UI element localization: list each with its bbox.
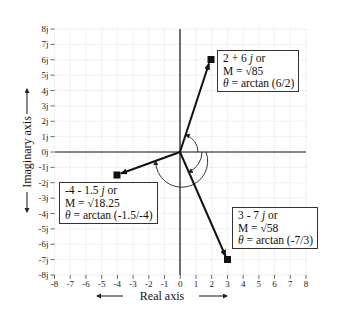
x-tick-label: -2 bbox=[145, 279, 153, 289]
point-marker-2 bbox=[114, 172, 121, 179]
x-tick-label: -5 bbox=[98, 279, 106, 289]
x-tick-label: 7 bbox=[288, 279, 293, 289]
point-marker-3 bbox=[224, 256, 231, 263]
angle-text: = arctan (6/2) bbox=[229, 77, 295, 89]
x-tick-label: -8 bbox=[51, 279, 59, 289]
y-tick-label: 1j bbox=[41, 132, 48, 142]
magnitude-text: M = √58 bbox=[238, 222, 313, 235]
real-axis-title: Real axis bbox=[97, 289, 227, 303]
or-text: or bbox=[105, 184, 117, 196]
y-tick-label: -5j bbox=[39, 224, 49, 234]
or-text: or bbox=[265, 209, 277, 221]
point-marker-1 bbox=[208, 56, 215, 63]
y-tick-label: 2j bbox=[41, 116, 48, 126]
angle-text: = arctan (-1.5/-4) bbox=[71, 209, 153, 221]
angle-text: = arctan (-7/3) bbox=[244, 234, 313, 246]
x-tick-label: 5 bbox=[257, 279, 262, 289]
y-tick-label: -1j bbox=[39, 162, 49, 172]
vector-2 bbox=[121, 152, 180, 174]
magnitude-text: M = √85 bbox=[223, 65, 294, 78]
complex-value: -4 - 1.5 bbox=[65, 184, 101, 196]
annotation-vector-1: 2 + 6 j or M = √85 θ = arctan (6/2) bbox=[217, 50, 299, 92]
y-tick-label: -8j bbox=[39, 270, 49, 280]
angle-arc-vector-3 bbox=[189, 152, 202, 172]
x-tick-label: -7 bbox=[66, 279, 74, 289]
complex-value: 3 - 7 bbox=[238, 209, 262, 221]
x-tick-label: 6 bbox=[272, 279, 277, 289]
x-tick-label: 0 bbox=[178, 279, 183, 289]
y-tick-label: -2j bbox=[39, 178, 49, 188]
x-tick-label: 3 bbox=[225, 279, 230, 289]
vectors bbox=[121, 64, 226, 257]
or-text: or bbox=[253, 52, 265, 64]
imaginary-axis-title: Imaginary axis bbox=[20, 89, 34, 212]
y-tick-label: 8j bbox=[41, 24, 48, 34]
y-tick-label: 3j bbox=[41, 101, 48, 111]
y-tick-label: -6j bbox=[39, 239, 49, 249]
x-axis-ticks: -8-7-6-5-4-3-2-1012345678 bbox=[51, 275, 309, 289]
x-tick-label: -3 bbox=[129, 279, 137, 289]
complex-value: 2 + 6 bbox=[223, 52, 250, 64]
angle-arcs bbox=[156, 135, 208, 187]
x-tick-label: -6 bbox=[82, 279, 90, 289]
x-tick-label: 1 bbox=[194, 279, 199, 289]
y-tick-label: -3j bbox=[39, 193, 49, 203]
x-tick-label: 8 bbox=[304, 279, 309, 289]
annotation-vector-3: 3 - 7 j or M = √58 θ = arctan (-7/3) bbox=[232, 207, 318, 249]
x-tick-label: -4 bbox=[114, 279, 122, 289]
y-tick-label: 7j bbox=[41, 39, 48, 49]
y-axis-ticks: 8j7j6j5j4j3j2j1j0j-1j-2j-3j-4j-5j-6j-7j-… bbox=[39, 24, 55, 280]
x-tick-label: -1 bbox=[161, 279, 169, 289]
y-tick-label: 6j bbox=[41, 55, 48, 65]
x-tick-label: 2 bbox=[209, 279, 214, 289]
x-tick-label: 4 bbox=[241, 279, 246, 289]
vector-1 bbox=[180, 64, 209, 153]
y-tick-label: -7j bbox=[39, 255, 49, 265]
real-axis-label: Real axis bbox=[140, 289, 185, 303]
imaginary-axis-label: Imaginary axis bbox=[20, 116, 34, 188]
annotation-vector-2: -4 - 1.5 j or M = √18.25 θ = arctan (-1.… bbox=[59, 182, 158, 224]
y-tick-label: 4j bbox=[41, 86, 48, 96]
y-tick-label: 0j bbox=[41, 147, 48, 157]
y-tick-label: -4j bbox=[39, 209, 49, 219]
magnitude-text: M = √18.25 bbox=[65, 197, 153, 210]
y-tick-label: 5j bbox=[41, 70, 48, 80]
complex-plane-plot: -8-7-6-5-4-3-2-1012345678 8j7j6j5j4j3j2j… bbox=[0, 0, 337, 313]
